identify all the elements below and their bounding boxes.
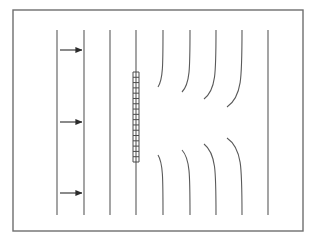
figure-background bbox=[0, 0, 318, 244]
flow-field-svg bbox=[0, 0, 318, 244]
flow-diagram-figure bbox=[0, 0, 318, 244]
